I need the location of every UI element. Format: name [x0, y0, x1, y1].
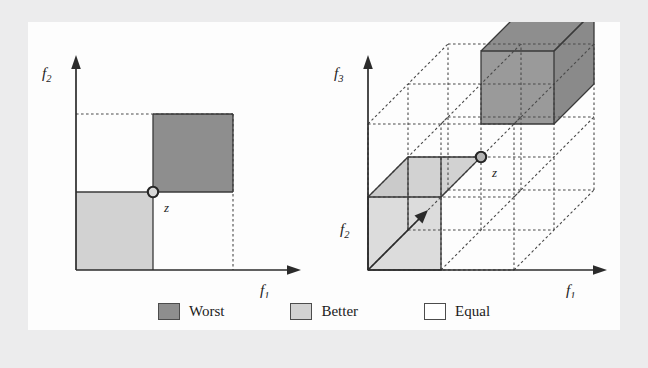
legend-swatch-worst	[158, 303, 180, 320]
legend-item-worst: Worst	[158, 303, 224, 320]
left-y-axis-label: f2	[42, 64, 52, 84]
right-plot: f3 f1 f2 z	[324, 22, 620, 298]
left-worst-region	[153, 114, 233, 192]
right-point-z-marker	[476, 152, 486, 162]
left-plot: f2 f1 z	[28, 22, 324, 298]
right-x-arrowhead	[593, 265, 607, 275]
legend-item-better: Better	[290, 303, 358, 320]
figure-root: f2 f1 z	[0, 0, 648, 368]
right-y-axis-label: f3	[334, 64, 344, 84]
right-grid-z-i0j2	[368, 44, 448, 124]
figure-panel: f2 f1 z	[28, 22, 620, 330]
legend: Worst Better Equal	[28, 296, 620, 326]
legend-label-equal: Equal	[455, 303, 490, 320]
legend-item-equal: Equal	[424, 303, 490, 320]
right-point-z-label: z	[491, 165, 497, 180]
right-depth-axis-label: f2	[340, 220, 350, 240]
legend-swatch-equal	[424, 303, 446, 320]
legend-label-better: Better	[321, 303, 358, 320]
left-point-z-marker	[148, 187, 158, 197]
legend-swatch-better	[290, 303, 312, 320]
left-x-arrowhead	[287, 265, 301, 275]
left-better-region	[76, 192, 153, 270]
right-grid-z-i2j0	[514, 190, 594, 270]
right-worst-front-face	[481, 51, 554, 124]
right-y-arrowhead	[363, 55, 373, 69]
left-y-arrowhead	[71, 55, 81, 69]
legend-label-worst: Worst	[189, 303, 224, 320]
left-point-z-label: z	[163, 200, 169, 215]
